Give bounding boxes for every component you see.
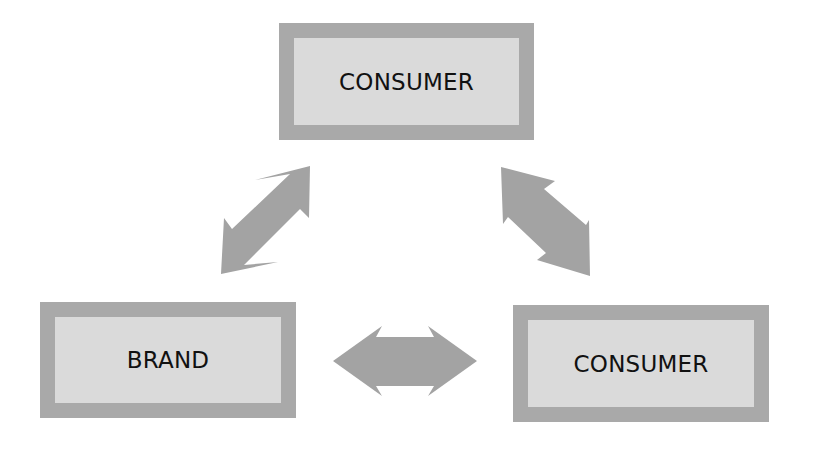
arrow-brand-consumer-top (221, 166, 310, 274)
node-consumer-top: CONSUMER (279, 23, 534, 140)
node-brand-label: BRAND (127, 347, 209, 373)
node-brand: BRAND (40, 302, 296, 418)
node-consumer-right: CONSUMER (513, 305, 769, 422)
node-consumer-top-label: CONSUMER (339, 69, 474, 95)
arrow-consumer-top-consumer-right (501, 167, 590, 276)
node-consumer-top-inner: CONSUMER (294, 38, 519, 125)
node-brand-inner: BRAND (55, 317, 281, 403)
arrow-brand-consumer-right (333, 326, 477, 396)
node-consumer-right-label: CONSUMER (574, 351, 709, 377)
node-consumer-right-inner: CONSUMER (528, 320, 754, 407)
